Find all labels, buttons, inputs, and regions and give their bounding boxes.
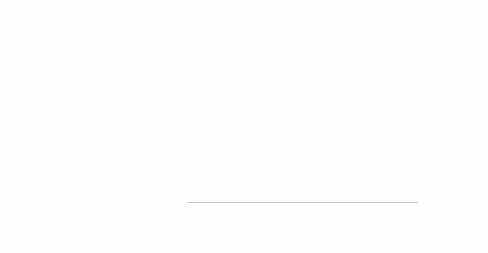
gridlines — [188, 16, 482, 202]
plot-area — [26, 16, 482, 202]
chart-container — [0, 0, 488, 253]
x-axis-line — [188, 202, 418, 203]
